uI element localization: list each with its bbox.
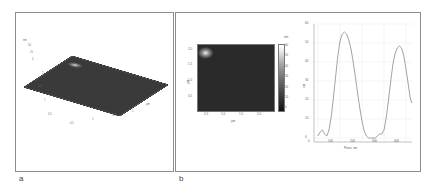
profile-ytick-4: 40 [305,60,308,63]
colorbar-tick-5: 50 [285,54,288,57]
afm-2d-height-image [197,44,275,112]
afm3d-xtick-1: 1 [92,119,93,122]
profile-ytick-5: 50 [305,41,308,44]
afm2d-ytick-2: 1.5 [188,63,192,66]
afm3d-xtick-2: 1.5 [112,115,116,118]
colorbar-tick-1: 10 [285,96,288,99]
profile-ytick-2: 20 [305,98,308,101]
afm2d-xtick-1: 1.0 [221,113,225,116]
panel-label-b: b [179,174,183,183]
profile-ytick-6: 60 [305,22,308,25]
afm3d-xtick-0: 0.5 [70,123,74,126]
colorbar-tick-4: 40 [285,65,288,68]
afm3d-ytick-3: 2 [42,73,43,76]
profile-svg [300,16,418,164]
afm2d-ytick-3: 2.0 [188,48,192,51]
colorbar-tick-6: 60 [285,44,288,47]
colorbar [278,44,285,112]
afm3d-ztick-0: 50 [28,45,31,48]
afm3d-ytick-0: 0.5 [48,114,52,117]
profile-xtick-1: 100 [328,140,333,143]
afm-3d-plot: 50 25 0 nm 2 1.5 1 0.5 0.5 1 1.5 2 µm [16,13,173,171]
panel-a: 50 25 0 nm 2 1.5 1 0.5 0.5 1 1.5 2 µm [15,12,174,172]
profile-ytick-1: 10 [305,117,308,120]
profile-ylabel: nm [303,84,306,88]
afm-2d-map: 2.0 1.5 1.0 0.5 µm 0.5 1.0 1.5 2.0 µm 0 … [183,40,293,130]
profile-xtick-3: 300 [372,140,377,143]
afm3d-ztick-2: 0 [32,59,33,62]
afm-3d-stage: 50 25 0 nm 2 1.5 1 0.5 0.5 1 1.5 2 µm [40,39,158,141]
afm2d-ylabel: µm [187,80,190,84]
figure-container: 50 25 0 nm 2 1.5 1 0.5 0.5 1 1.5 2 µm a … [0,0,437,193]
afm3d-xtick-3: 2 [132,111,133,114]
afm-3d-surface-mesh [24,56,168,116]
afm2d-xtick-2: 1.5 [239,113,243,116]
colorbar-tick-2: 20 [285,86,288,89]
afm2d-xlabel: µm [231,120,235,123]
profile-ytick-0: 0 [305,136,307,139]
afm2d-ytick-0: 0.5 [188,95,192,98]
afm3d-ztick-1: 25 [30,52,33,55]
afm3d-xunit: µm [146,103,150,106]
profile-xtick-0: 0 [308,140,310,143]
afm3d-ytick-1: 1 [44,100,45,103]
afm3d-zunit: nm [23,39,27,42]
afm3d-ytick-2: 1.5 [38,86,42,89]
panel-label-a: a [19,174,23,183]
profile-ytick-3: 30 [305,79,308,82]
line-profile-plot: 0 100 200 300 400 Piezo, nm 0 10 20 30 4… [300,16,418,164]
colorbar-unit: nm [284,36,288,39]
profile-curve [318,32,412,138]
profile-xtick-2: 200 [350,140,355,143]
colorbar-tick-0: 0 [285,106,287,109]
profile-xtick-4: 400 [394,140,399,143]
colorbar-tick-3: 30 [285,75,288,78]
profile-xlabel: Piezo, nm [344,147,357,150]
afm2d-xtick-3: 2.0 [257,113,261,116]
afm2d-xtick-0: 0.5 [204,113,208,116]
